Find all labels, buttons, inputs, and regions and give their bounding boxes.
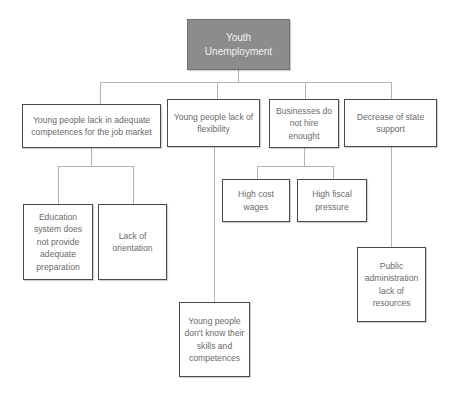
connector [133,166,134,204]
node-label: Public administration lack of resources [361,260,422,310]
node-label: Businesses do not hire enought [273,105,335,143]
node-label: High fiscal pressure [301,188,363,213]
connector [100,82,392,83]
connector [391,82,392,99]
subcause-node-skills-competences: Young people don't know their skills and… [179,302,250,377]
node-label: Young people lack of flexibility [171,111,256,136]
connector [238,70,239,82]
cause-node-state-support: Decrease of state support [344,99,437,147]
subcause-node-high-cost-wages: High cost wages [222,179,290,222]
subcause-node-high-fiscal-pressure: High fiscal pressure [297,179,367,222]
connector [333,166,334,179]
node-label: Decrease of state support [348,111,433,136]
root-node-youth-unemployment: Youth Unemployment [187,19,290,70]
cause-node-flexibility: Young people lack of flexibility [167,99,260,147]
connector [100,82,101,104]
node-label: Young people don't know their skills and… [183,315,246,365]
connector [214,147,215,302]
connector [391,147,392,247]
cause-node-competences: Young people lack in adequate competence… [22,104,161,148]
connector [304,148,305,166]
connector [58,166,59,204]
node-label: Lack of orientation [102,230,163,255]
connector [257,166,334,167]
connector [91,148,92,166]
subcause-node-education-system: Education system does not provide adequa… [23,204,93,280]
subcause-node-lack-of-orientation: Lack of orientation [98,204,167,280]
connector [58,166,134,167]
connector [257,166,258,179]
problem-tree-diagram: Youth Unemployment Young people lack in … [0,0,457,399]
node-label: High cost wages [226,188,286,213]
node-label: Young people lack in adequate competence… [26,114,157,139]
connector [217,82,218,99]
subcause-node-public-administration: Public administration lack of resources [357,247,426,322]
node-label: Youth Unemployment [191,31,286,59]
node-label: Education system does not provide adequa… [27,211,89,274]
cause-node-businesses: Businesses do not hire enought [269,99,339,148]
